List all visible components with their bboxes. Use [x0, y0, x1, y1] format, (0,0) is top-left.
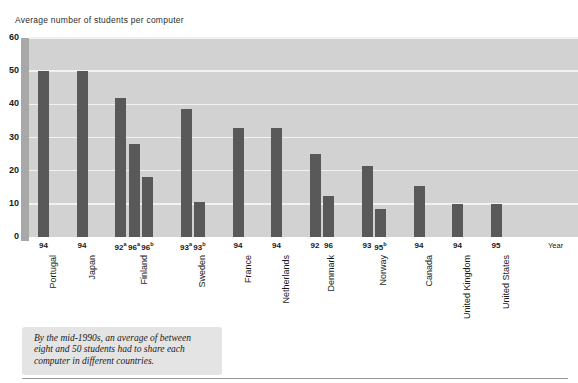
year-label: 94: [263, 241, 291, 250]
year-label: 94: [444, 241, 472, 250]
bar: [115, 98, 126, 237]
bar: [310, 154, 321, 237]
bar: [77, 71, 88, 237]
year-label: 93b: [186, 241, 214, 252]
bar: [194, 202, 205, 237]
y-tick-label-10: 10: [0, 198, 19, 208]
bar: [452, 204, 463, 237]
x-axis-title: Year: [548, 241, 563, 250]
year-label: 94: [68, 241, 96, 250]
chart-figure: Average number of students per computer …: [0, 0, 578, 383]
bar: [38, 71, 49, 237]
y-tick-label-20: 20: [0, 165, 19, 175]
bar: [271, 128, 282, 237]
bar: [181, 109, 192, 237]
year-label: 94: [224, 241, 252, 250]
year-label: 95b: [367, 241, 395, 252]
bar: [142, 177, 153, 237]
country-label: Sweden: [197, 255, 207, 288]
bar: [375, 209, 386, 237]
y-tick-label-40: 40: [0, 98, 19, 108]
bar: [491, 204, 502, 237]
bar: [414, 186, 425, 237]
year-label: 94: [30, 241, 58, 250]
caption-text: By the mid-1990s, an average of between …: [34, 333, 212, 367]
year-label: 96b: [134, 241, 162, 252]
country-label: Denmark: [326, 255, 336, 292]
bar: [233, 128, 244, 237]
chart-title: Average number of students per computer: [15, 15, 184, 25]
country-label: United Kingdom: [462, 255, 472, 319]
year-label: 95: [482, 241, 510, 250]
bottom-rule: [22, 378, 568, 379]
country-label: Norway: [378, 255, 388, 286]
country-label: Finland: [139, 255, 149, 285]
country-label: France: [243, 255, 253, 283]
country-label: United States: [501, 255, 511, 309]
bars-layer: [29, 38, 578, 237]
country-label: Portugal: [48, 255, 58, 289]
country-label: Japan: [87, 255, 97, 280]
bar: [129, 144, 140, 237]
bar: [362, 166, 373, 237]
year-label: 94: [405, 241, 433, 250]
caption-box: By the mid-1990s, an average of between …: [22, 327, 222, 375]
y-axis-band: [21, 38, 29, 241]
year-label: 96: [315, 241, 343, 250]
country-label: Canada: [424, 255, 434, 287]
country-label: Netherlands: [281, 255, 291, 304]
bar: [323, 196, 334, 237]
y-tick-label-30: 30: [0, 132, 19, 142]
y-tick-label-50: 50: [0, 65, 19, 75]
y-tick-label-60: 60: [0, 32, 19, 42]
